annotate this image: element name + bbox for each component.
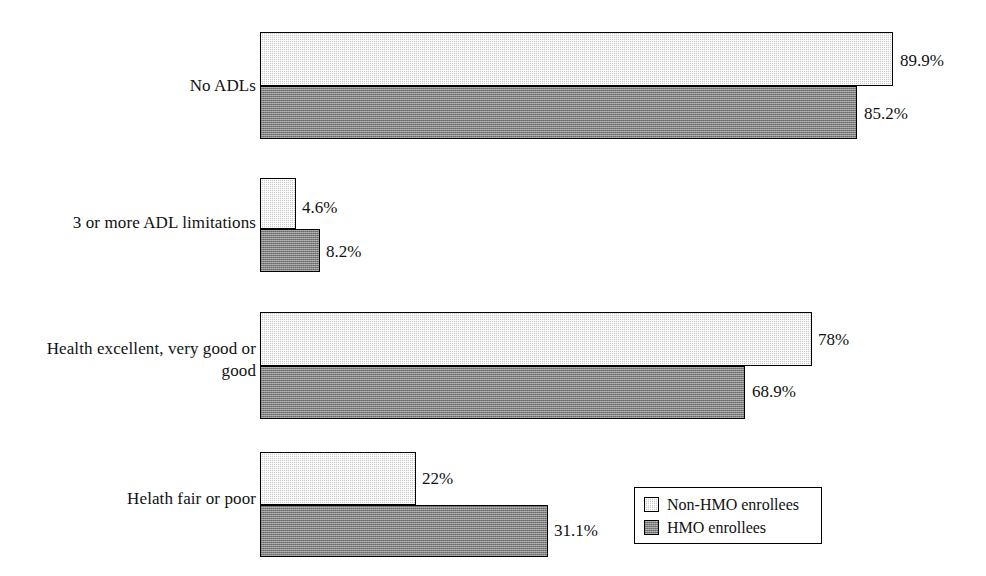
legend-item-hmo-enrollees: HMO enrollees [644,516,813,539]
legend-swatch-light-gray-icon [644,497,659,512]
bar-non-hmo-health-excellent-very-good-or-good [260,312,812,366]
value-label-non-hmo-health-fair-or-poor: 22% [422,470,453,488]
bar-hmo-3-or-more-adl-limitations [260,229,320,272]
bar-chart: No ADLs 3 or more ADL limitations Health… [0,0,986,576]
bar-hmo-health-excellent-very-good-or-good [260,366,745,419]
bar-non-hmo-3-or-more-adl-limitations [260,178,296,229]
legend-item-non-hmo-enrollees: Non-HMO enrollees [644,493,813,516]
chart-legend: Non-HMO enrollees HMO enrollees [634,487,822,544]
bar-non-hmo-no-adls [260,32,893,86]
value-label-hmo-no-adls: 85.2% [864,105,908,123]
value-label-hmo-health-excellent-very-good-or-good: 68.9% [752,383,796,401]
legend-label-non-hmo-enrollees: Non-HMO enrollees [667,496,799,513]
bar-hmo-health-fair-or-poor [260,505,548,557]
value-label-non-hmo-no-adls: 89.9% [900,52,944,70]
value-label-non-hmo-health-excellent-very-good-or-good: 78% [818,331,849,349]
bar-hmo-no-adls [260,86,857,139]
category-label-3-or-more-adl-limitations: 3 or more ADL limitations [10,212,256,234]
category-label-health-excellent-very-good-or-good: Health excellent, very good or good [20,338,256,382]
value-label-non-hmo-3-or-more-adl-limitations: 4.6% [302,199,337,217]
bar-non-hmo-health-fair-or-poor [260,452,416,505]
category-label-no-adls: No ADLs [20,75,256,97]
value-label-hmo-3-or-more-adl-limitations: 8.2% [326,243,361,261]
legend-label-hmo-enrollees: HMO enrollees [667,519,766,536]
category-label-health-fair-or-poor: Helath fair or poor [20,488,256,510]
value-label-hmo-health-fair-or-poor: 31.1% [554,522,598,540]
legend-swatch-dark-gray-icon [644,520,659,535]
